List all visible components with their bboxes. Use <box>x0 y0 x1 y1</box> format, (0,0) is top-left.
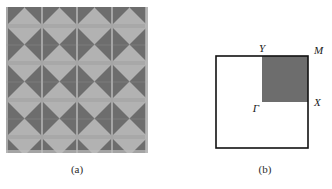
label-X: X <box>313 96 322 108</box>
panel-a-lattice-image <box>6 7 148 153</box>
caption-panel-b: (b) <box>205 163 325 175</box>
irreducible-wedge-shaded-region <box>262 56 308 102</box>
figure-container: Y M Γ X (a) (b) <box>0 0 332 189</box>
panel-b-brillouin-zone: Y M Γ X <box>205 40 325 158</box>
caption-panel-a: (a) <box>0 163 154 175</box>
brillouin-zone-svg: Y M Γ X <box>205 40 325 158</box>
label-M: M <box>313 44 324 56</box>
lattice-edge-shade <box>145 7 148 153</box>
label-Y: Y <box>259 42 267 54</box>
lattice-edge-shade <box>6 150 148 153</box>
label-gamma: Γ <box>252 102 260 114</box>
lattice-svg <box>6 7 148 153</box>
